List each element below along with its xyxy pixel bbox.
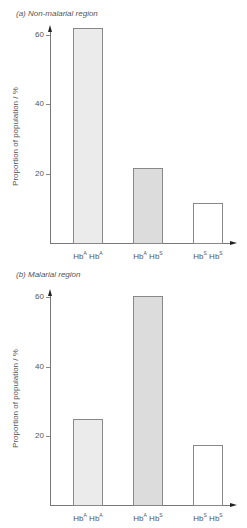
tick-40 — [46, 104, 50, 105]
tick-60 — [46, 35, 50, 36]
cat-base: Hb — [209, 252, 219, 261]
cat-sup: S — [219, 512, 222, 518]
cat-sup: A — [144, 250, 147, 256]
x-axis-arrow-icon — [230, 241, 237, 245]
cat-sup: S — [204, 250, 207, 256]
cat-sup: S — [159, 250, 162, 256]
bar-hbs-hbs — [193, 445, 223, 506]
category-label-hba-hba: HbA HbA — [66, 512, 110, 523]
category-label-hbs-hbs: HbS HbS — [186, 250, 230, 261]
category-label-hba-hba: HbA HbA — [66, 250, 110, 261]
cat-base: Hb — [89, 252, 99, 261]
y-axis-label-b: Proportion of population / % — [11, 341, 20, 457]
cat-base: Hb — [133, 252, 143, 261]
cat-base: Hb — [209, 514, 219, 523]
cat-base: Hb — [89, 514, 99, 523]
chart-panel-a: (a) Non-malarial region Proportion of po… — [0, 0, 247, 262]
tick-60 — [46, 297, 50, 298]
cat-base: Hb — [73, 252, 83, 261]
cat-sup: S — [159, 512, 162, 518]
tick-20 — [46, 174, 50, 175]
cat-sup: A — [99, 512, 102, 518]
tick-label-20: 20 — [24, 169, 44, 178]
tick-label-60: 60 — [24, 30, 44, 39]
bar-hba-hbs — [133, 168, 163, 244]
bar-hba-hba — [73, 419, 103, 506]
cat-sup: S — [219, 250, 222, 256]
tick-40 — [46, 367, 50, 368]
cat-base: Hb — [73, 514, 83, 523]
chart-title-b: (b) Malarial region — [16, 270, 80, 279]
category-label-hba-hbs: HbA HbS — [126, 250, 170, 261]
tick-label-40: 40 — [24, 99, 44, 108]
y-axis-b — [50, 294, 51, 505]
cat-sup: A — [144, 512, 147, 518]
cat-sup: A — [99, 250, 102, 256]
chart-panel-b: (b) Malarial region Proportion of popula… — [0, 262, 247, 528]
cat-base: Hb — [193, 252, 203, 261]
cat-sup: S — [204, 512, 207, 518]
tick-label-20: 20 — [24, 431, 44, 440]
cat-base: Hb — [149, 252, 159, 261]
y-axis-arrow-icon — [48, 25, 52, 32]
x-axis-arrow-icon — [230, 503, 237, 507]
cat-base: Hb — [193, 514, 203, 523]
y-axis-a — [50, 30, 51, 243]
tick-20 — [46, 436, 50, 437]
y-axis-arrow-icon — [48, 289, 52, 296]
tick-label-40: 40 — [24, 362, 44, 371]
cat-base: Hb — [149, 514, 159, 523]
bar-hba-hba — [73, 28, 103, 244]
cat-base: Hb — [133, 514, 143, 523]
category-label-hbs-hbs: HbS HbS — [186, 512, 230, 523]
cat-sup: A — [84, 250, 87, 256]
tick-label-60: 60 — [24, 292, 44, 301]
bar-hbs-hbs — [193, 203, 223, 244]
y-axis-label-a: Proportion of population / % — [11, 79, 20, 195]
category-label-hba-hbs: HbA HbS — [126, 512, 170, 523]
cat-sup: A — [84, 512, 87, 518]
bar-hba-hbs — [133, 296, 163, 506]
chart-title-a: (a) Non-malarial region — [16, 9, 98, 18]
